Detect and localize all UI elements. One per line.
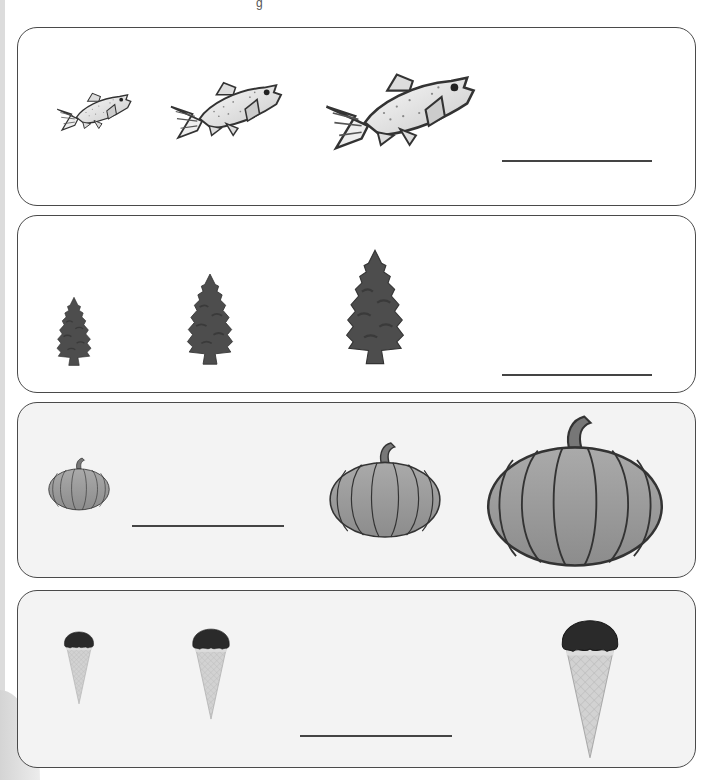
fish-medium xyxy=(166,78,286,145)
row-ice-cream xyxy=(17,590,696,768)
row-fish xyxy=(17,27,696,206)
pumpkin-small xyxy=(46,457,112,511)
cone-large xyxy=(558,595,622,765)
answer-blank[interactable] xyxy=(132,525,284,527)
tree-icon xyxy=(54,296,94,368)
fish-icon xyxy=(166,78,286,145)
title-fragment: g xyxy=(256,0,263,10)
cone-medium xyxy=(190,615,232,721)
answer-blank[interactable] xyxy=(502,160,652,162)
tree-medium xyxy=(184,272,236,368)
cone-small xyxy=(62,621,96,705)
pumpkin-icon xyxy=(46,457,112,511)
answer-blank[interactable] xyxy=(300,735,452,737)
pumpkin-medium xyxy=(326,441,444,539)
pumpkin-icon xyxy=(482,411,668,571)
tree-small xyxy=(54,296,94,368)
row-trees xyxy=(17,215,696,393)
row-pumpkins xyxy=(17,402,696,578)
pumpkin-icon xyxy=(326,441,444,539)
fish-icon xyxy=(320,68,480,158)
pumpkin-large xyxy=(482,411,668,571)
fish-small xyxy=(54,90,134,135)
tree-icon xyxy=(342,248,408,368)
ice-cream-cone-icon xyxy=(190,615,232,721)
fish-large xyxy=(320,68,480,158)
tree-icon xyxy=(184,272,236,368)
ice-cream-cone-icon xyxy=(558,595,622,765)
tree-large xyxy=(342,248,408,368)
fish-icon xyxy=(54,90,134,135)
page-edge-shadow xyxy=(0,0,5,700)
answer-blank[interactable] xyxy=(502,374,652,376)
ice-cream-cone-icon xyxy=(62,621,96,705)
